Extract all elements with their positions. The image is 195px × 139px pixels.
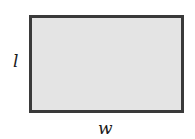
width-label: w bbox=[98, 120, 113, 137]
length-label: l bbox=[13, 53, 18, 70]
rectangle-shape bbox=[29, 15, 184, 113]
